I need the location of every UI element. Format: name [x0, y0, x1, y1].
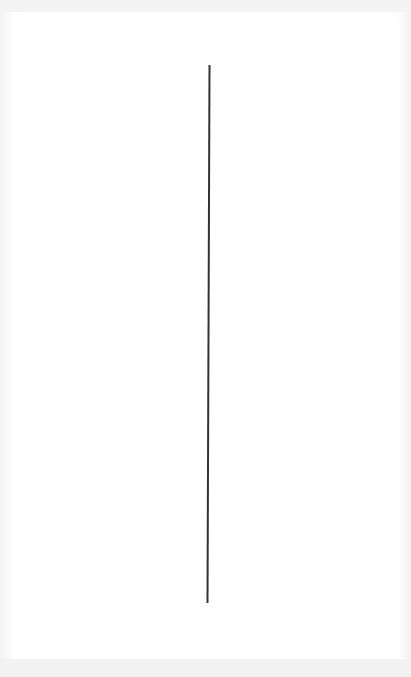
canvas-svg	[0, 0, 411, 677]
bottom-bar	[0, 659, 411, 677]
vertical-stroke-line[interactable]	[208, 65, 210, 603]
drawing-canvas[interactable]	[0, 12, 411, 659]
page	[0, 0, 411, 677]
